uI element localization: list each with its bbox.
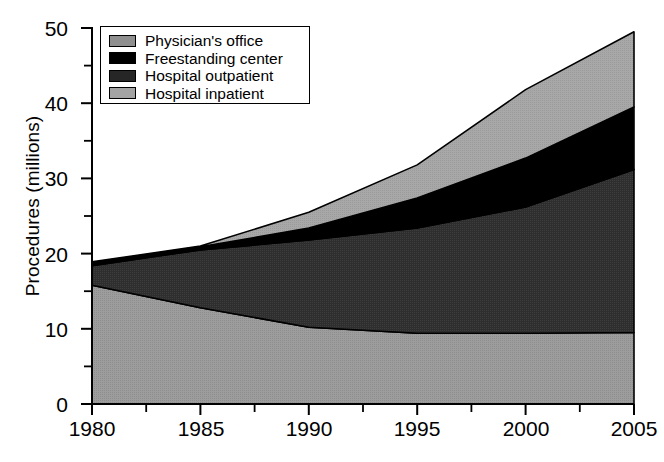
legend-item-hospital-inpatient: Hospital inpatient	[109, 85, 302, 103]
legend-label: Hospital inpatient	[145, 86, 264, 102]
chart-legend: Physician's office Freestanding center H…	[100, 26, 310, 104]
legend-item-physicians-office: Physician's office	[109, 32, 302, 50]
black-swatch-icon	[109, 52, 136, 64]
figure-caption	[0, 448, 664, 462]
legend-label: Physician's office	[145, 33, 263, 49]
legend-item-hospital-outpatient: Hospital outpatient	[109, 67, 302, 85]
dark-gray-swatch-icon	[109, 70, 136, 82]
light-gray-swatch-icon	[109, 87, 136, 99]
stacked-area-chart: Procedures (millions) 50 40 30 20 10 0 1…	[0, 0, 664, 462]
legend-item-freestanding-center: Freestanding center	[109, 50, 302, 68]
legend-label: Hospital outpatient	[145, 68, 273, 84]
legend-label: Freestanding center	[145, 51, 283, 67]
medium-gray-swatch-icon	[109, 35, 136, 47]
